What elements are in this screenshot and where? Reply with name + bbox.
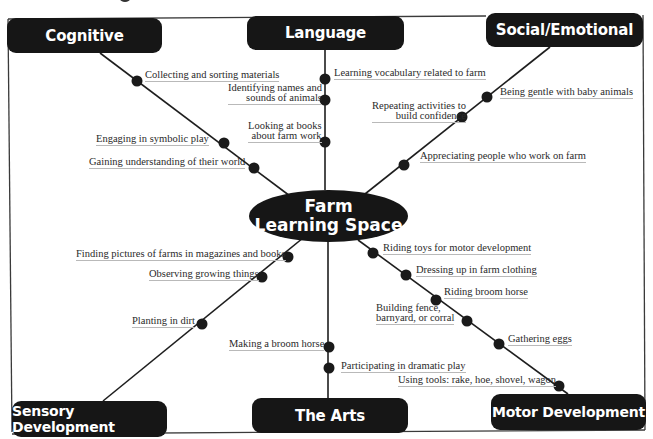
- domain-label-social-emotional: Social/Emotional: [496, 21, 633, 39]
- activity-label: Repeating activities to build confidence: [372, 101, 466, 123]
- farm-learning-web-diagram: Cognitive Language Social/Emotional Sens…: [0, 0, 653, 439]
- node-social-3: [399, 160, 410, 171]
- center-topic: Farm Learning Space: [249, 190, 408, 242]
- node-motor-4: [462, 316, 473, 327]
- node-cognitive-3: [249, 163, 260, 174]
- node-arts-1: [324, 342, 335, 353]
- activity-label: Building fence, barnyard, or corral: [376, 303, 454, 325]
- activity-label: Finding pictures of farms in magazines a…: [76, 249, 286, 261]
- domain-box-sensory-development: Sensory Development: [12, 401, 167, 437]
- activity-label: Looking at books about farm work: [248, 121, 322, 143]
- center-title-line2: Learning Space: [255, 216, 403, 235]
- domain-box-social-emotional: Social/Emotional: [486, 13, 643, 47]
- node-social-1: [482, 92, 493, 103]
- node-cognitive-1: [132, 76, 143, 87]
- domain-label-the-arts: The Arts: [295, 407, 365, 425]
- node-cognitive-2: [219, 138, 230, 149]
- activity-label: Gathering eggs: [508, 334, 572, 346]
- domain-label-motor-development: Motor Development: [492, 404, 645, 420]
- activity-label: Dressing up in farm clothing: [416, 265, 537, 277]
- activity-label: Appreciating people who work on farm: [420, 151, 586, 163]
- domain-box-the-arts: The Arts: [252, 398, 408, 433]
- activity-label: Identifying names and sounds of animals: [228, 83, 322, 105]
- activity-label: Engaging in symbolic play: [96, 134, 209, 146]
- activity-label: Riding toys for motor development: [383, 243, 531, 255]
- node-sensory-3: [197, 319, 208, 330]
- activity-label: Participating in dramatic play: [341, 361, 466, 373]
- domain-box-motor-development: Motor Development: [491, 394, 646, 430]
- node-arts-2: [324, 363, 335, 374]
- domain-label-cognitive: Cognitive: [45, 27, 123, 45]
- node-motor-2: [401, 270, 412, 281]
- activity-label: Observing growing things: [149, 269, 259, 281]
- node-motor-5: [494, 339, 505, 350]
- domain-box-language: Language: [247, 16, 404, 50]
- domain-label-sensory-development: Sensory Development: [12, 403, 167, 435]
- activity-label: Using tools: rake, hoe, shovel, wagon: [398, 375, 556, 387]
- center-title-line1: Farm: [304, 197, 352, 216]
- activity-label: Planting in dirt: [132, 316, 195, 328]
- activity-label: Being gentle with baby animals: [500, 87, 633, 99]
- activity-label: Making a broom horse: [229, 339, 324, 351]
- domain-label-language: Language: [285, 24, 366, 42]
- activity-label: Learning vocabulary related to farm: [334, 68, 486, 80]
- activity-label: Collecting and sorting materials: [145, 70, 279, 82]
- node-motor-1: [368, 248, 379, 259]
- activity-label: Gaining understanding of their world: [89, 157, 245, 169]
- domain-box-cognitive: Cognitive: [7, 18, 162, 53]
- activity-label: Riding broom horse: [444, 287, 528, 299]
